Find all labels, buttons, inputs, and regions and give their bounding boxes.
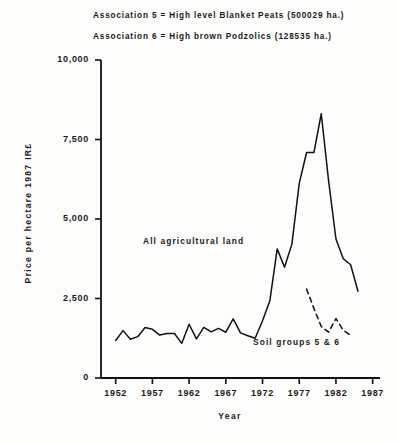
x-tick-label: 1977 (279, 388, 319, 398)
x-tick-label: 1962 (169, 388, 209, 398)
y-tick-label: 5,000 (33, 213, 89, 223)
x-tick-label: 1957 (132, 388, 172, 398)
series-line-soil-groups (307, 289, 351, 335)
y-tick-label: 2,500 (33, 293, 89, 303)
x-tick-label: 1987 (353, 388, 393, 398)
y-tick-label: 10,000 (33, 54, 89, 64)
y-tick-label: 7,500 (33, 134, 89, 144)
x-tick-label: 1972 (243, 388, 283, 398)
chart-figure: Association 5 = High level Blanket Peats… (0, 0, 397, 443)
y-tick-label: 0 (33, 372, 89, 382)
x-tick-label: 1952 (96, 388, 136, 398)
series-line-all-agricultural-land (116, 114, 358, 344)
x-tick-label: 1982 (316, 388, 356, 398)
x-tick-label: 1967 (206, 388, 246, 398)
